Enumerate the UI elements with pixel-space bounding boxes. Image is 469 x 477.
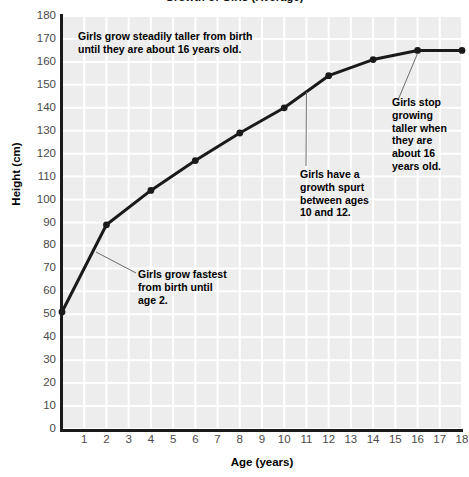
annotation-steady-growth: Girls grow steadily taller from birth un… [78, 30, 308, 56]
annotation-growth-spurt: Girls have a growth spurt between ages 1… [300, 168, 392, 219]
annotation-stop-growing: Girls stop growing taller when they are … [392, 96, 468, 173]
growth-chart: Growth of Girls (Average) 01020304050607… [0, 0, 469, 477]
annotation-fastest-growth: Girls grow fastest from birth until age … [138, 268, 258, 306]
data-series-line [0, 0, 469, 477]
